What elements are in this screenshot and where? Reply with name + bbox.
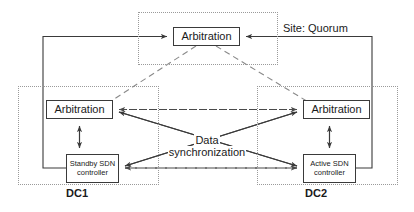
sync-label-line2: synchronization xyxy=(168,146,246,158)
node-label: Arbitration xyxy=(311,103,361,115)
sync-label-line1: Data xyxy=(194,134,219,146)
node-label-line2: controller xyxy=(314,168,345,177)
node-label: Arbitration xyxy=(54,103,104,115)
node-active-sdn-controller[interactable]: Active SDN controller xyxy=(303,154,356,183)
label-dc2: DC2 xyxy=(305,187,327,199)
node-arbitration-dc1[interactable]: Arbitration xyxy=(46,100,113,119)
node-arbitration-dc2[interactable]: Arbitration xyxy=(303,100,370,119)
node-label: Standby SDN controller xyxy=(70,160,115,177)
node-label: Active SDN controller xyxy=(310,160,348,177)
label-site-quorum: Site: Quorum xyxy=(283,22,348,34)
label-data-synchronization: Data synchronization xyxy=(147,134,267,158)
node-label: Arbitration xyxy=(181,30,231,42)
node-arbitration-quorum[interactable]: Arbitration xyxy=(173,27,240,46)
label-dc1: DC1 xyxy=(66,187,88,199)
node-standby-sdn-controller[interactable]: Standby SDN controller xyxy=(66,154,119,183)
node-label-line2: controller xyxy=(77,168,108,177)
diagram-canvas: Arbitration Arbitration Arbitration Stan… xyxy=(0,0,414,212)
